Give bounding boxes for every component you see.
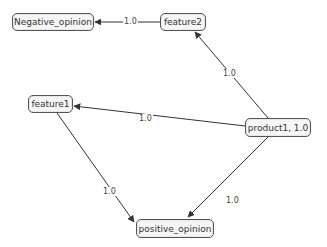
edge-label-product1-positive-opinion: 1.0 [225, 196, 240, 205]
node-positive-opinion[interactable]: positive_opinion [136, 219, 214, 238]
edge-label-feature1-positive-opinion: 1.0 [102, 187, 117, 196]
node-negative-opinion[interactable]: Negative_opinion [12, 13, 94, 31]
edge-product1-positive-opinion [188, 137, 268, 217]
edge-product1-feature1 [74, 106, 245, 126]
edge-label-product1-feature2: 1.0 [222, 69, 237, 78]
edge-feature1-positive-opinion [57, 113, 134, 222]
node-product1[interactable]: product1, 1.0 [245, 118, 311, 137]
node-feature1[interactable]: feature1 [28, 95, 73, 113]
edge-label-feature2-negative-opinion: 1.0 [123, 17, 138, 26]
node-feature2[interactable]: feature2 [160, 13, 206, 31]
edge-label-product1-feature1: 1.0 [138, 114, 153, 123]
